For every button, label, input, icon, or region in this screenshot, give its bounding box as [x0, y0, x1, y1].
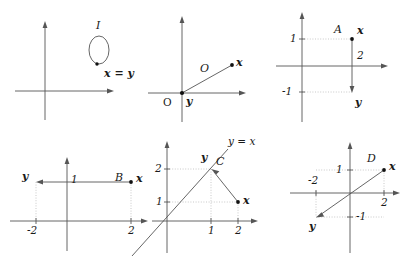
math-figure: I x = y O y O x	[0, 0, 409, 261]
x-axis-arrowhead	[239, 91, 246, 96]
vector-x-dot	[230, 63, 234, 67]
tick-label-2: 2	[381, 197, 388, 208]
vector-x-dot	[350, 37, 354, 41]
vector-label-x: x	[236, 57, 243, 68]
y-axis-arrowhead	[43, 21, 48, 28]
x-axis-arrowhead	[251, 219, 258, 224]
y-axis-arrowhead	[180, 16, 185, 23]
tick-label-neg1: -1	[282, 86, 292, 97]
vector-label-x: x	[389, 161, 396, 172]
fixed-point-dot	[95, 62, 98, 65]
panel-zero: O y O x	[136, 0, 276, 130]
tick-label-neg1: -1	[356, 211, 366, 222]
tick-label-neg2: -2	[27, 225, 37, 236]
map-arrow-head	[36, 180, 43, 185]
tick-label-1: 1	[290, 33, 297, 44]
map-arrow-segment	[320, 170, 384, 215]
vector-label-x: x	[136, 173, 143, 184]
tick-label-2: 2	[128, 225, 135, 236]
tick-label-2-vertical: 2	[155, 163, 162, 174]
map-arrow-head	[350, 86, 355, 93]
x-axis-arrowhead	[107, 89, 114, 94]
operator-label-C: C	[216, 156, 224, 167]
panel-C-graphic	[150, 131, 280, 261]
y-axis-arrowhead	[348, 142, 353, 149]
vector-label-y: y	[201, 152, 207, 163]
vector-x-dot	[129, 180, 133, 184]
line-label-y-equals-x: y = x	[228, 136, 255, 147]
vector-x-dot	[236, 200, 240, 204]
y-axis-arrowhead	[65, 157, 70, 164]
map-arrow-segment	[214, 172, 238, 202]
operator-label-I: I	[96, 20, 100, 31]
operator-label-O: O	[200, 63, 209, 74]
segment-length-label-2: 2	[357, 50, 364, 61]
x-axis-arrowhead	[141, 219, 148, 224]
tick-label-neg2: -2	[308, 175, 318, 186]
panel-A-graphic	[272, 0, 409, 130]
vector-x-dot	[382, 168, 386, 172]
origin-label: O	[163, 97, 172, 108]
vector-label-y: y	[22, 171, 28, 182]
panel-D-graphic	[278, 131, 409, 261]
tick-label-1-vertical: 1	[156, 196, 163, 207]
panel-A: 1 -1 A x 2 y	[272, 0, 409, 130]
vector-label-y: y	[186, 96, 192, 107]
vector-label-y: y	[309, 221, 315, 232]
operator-label-A: A	[334, 24, 342, 35]
origin-dot	[180, 91, 184, 95]
vector-label-x: x	[243, 195, 250, 206]
identity-loop	[89, 36, 109, 64]
tick-label-2-horizontal: 2	[235, 225, 242, 236]
panel-D: 1 D x -2 2 -1 y	[278, 131, 409, 261]
x-axis-arrowhead	[381, 64, 388, 69]
panel-C: 2 1 y C y = x x 1 2	[150, 131, 280, 261]
vector-label-y: y	[355, 97, 361, 108]
panel-identity: I x = y	[0, 0, 140, 130]
y-axis-arrowhead	[165, 141, 170, 148]
x-axis-arrowhead	[393, 191, 400, 196]
y-axis-arrowhead	[300, 12, 305, 19]
tick-label-1-horizontal: 1	[208, 225, 215, 236]
operator-label-D: D	[367, 153, 376, 164]
panel-identity-graphic	[0, 0, 140, 130]
operator-label-B: B	[115, 172, 123, 183]
tick-label-1: 1	[71, 174, 78, 185]
vector-label-x-equals-y: x = y	[104, 68, 134, 79]
tick-label-1: 1	[336, 164, 343, 175]
vector-label-x: x	[357, 25, 364, 36]
